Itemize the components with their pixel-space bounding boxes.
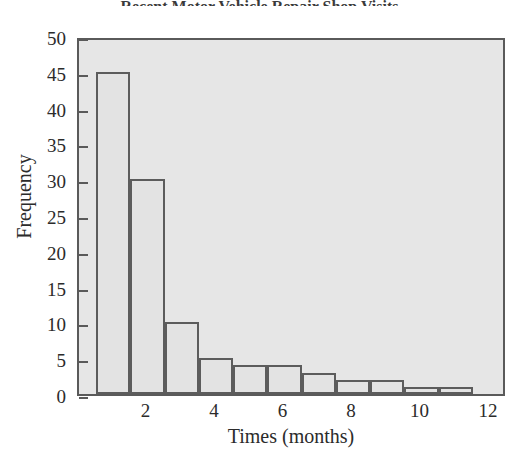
x-axis-tick-label: 10 (410, 400, 429, 422)
y-axis-tick (79, 254, 88, 256)
histogram-bar (130, 179, 164, 394)
y-axis-tick (79, 111, 88, 113)
y-axis-tick-label: 35 (47, 136, 66, 155)
x-axis-tick-label: 8 (346, 400, 356, 422)
y-axis-title: Frequency (13, 117, 36, 277)
bars-container (79, 40, 503, 394)
y-axis-tick (79, 182, 88, 184)
histogram-bar (404, 387, 438, 394)
y-axis-tick (79, 361, 88, 363)
y-axis-tick-label: 5 (57, 351, 67, 370)
y-axis-tick-label: 25 (47, 208, 66, 227)
histogram-figure: Recent Motor Vehicle Repair Shop Visits … (0, 0, 519, 456)
x-axis-tick-label: 2 (141, 400, 151, 422)
histogram-bar (336, 380, 370, 394)
y-axis-tick (79, 325, 88, 327)
histogram-bar (96, 72, 130, 394)
y-axis-tick-label: 40 (47, 100, 66, 119)
y-axis-tick-label: 45 (47, 64, 66, 83)
y-axis-tick (79, 397, 88, 399)
histogram-bar (302, 373, 336, 394)
plot-area (77, 38, 505, 396)
y-axis-tick (79, 146, 88, 148)
histogram-bar (233, 365, 267, 394)
x-axis-tick-labels: 24681012 (77, 400, 505, 426)
y-axis-tick-label: 0 (57, 387, 67, 406)
y-axis-tick-label: 10 (47, 315, 66, 334)
histogram-bar (165, 322, 199, 394)
histogram-bar (199, 358, 233, 394)
y-axis-tick (79, 75, 88, 77)
histogram-bar (439, 387, 473, 394)
y-axis-tick (79, 290, 88, 292)
y-axis-tick-label: 20 (47, 243, 66, 262)
y-axis-tick-label: 30 (47, 172, 66, 191)
histogram-bar (267, 365, 301, 394)
x-axis-title: Times (months) (77, 425, 505, 448)
y-axis-tick (79, 39, 88, 41)
y-axis-tick (79, 218, 88, 220)
histogram-bar (370, 380, 404, 394)
x-axis-tick-label: 12 (478, 400, 497, 422)
x-axis-tick-label: 4 (209, 400, 219, 422)
y-axis-tick-label: 50 (47, 29, 66, 48)
chart-title-remnant: Recent Motor Vehicle Repair Shop Visits (0, 0, 519, 6)
x-axis-tick-label: 6 (278, 400, 288, 422)
y-axis-tick-labels: 05101520253035404550 (0, 38, 72, 396)
y-axis-tick-label: 15 (47, 279, 66, 298)
